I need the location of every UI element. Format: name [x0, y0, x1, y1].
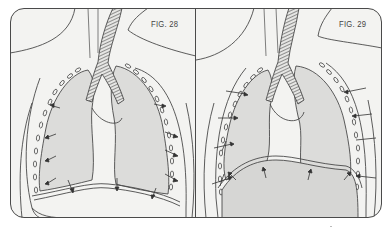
figure-28-label: FIG. 28: [151, 19, 178, 29]
figure-29-expiration: [196, 8, 382, 218]
figure-28-drawing: [10, 8, 196, 218]
figure-29-label: FIG. 29: [339, 19, 366, 29]
figure-28-inspiration: [10, 8, 196, 218]
figure-29-drawing: [196, 8, 382, 218]
print-speck: [330, 226, 332, 227]
figure-divider: [195, 8, 196, 218]
